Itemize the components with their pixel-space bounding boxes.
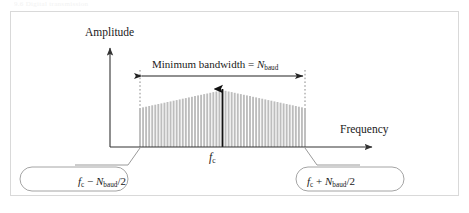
amplitude-axis-label: Amplitude [85, 27, 134, 39]
center-frequency-subscript: c [212, 156, 215, 165]
upper-callout-leader-line [305, 148, 360, 165]
lower-callout-leader-line [75, 148, 140, 165]
bandwidth-annotation-label: Minimum bandwidth = Nbaud [152, 59, 278, 72]
lower-band-edge-callout-text: fc − Nbaud/2 [78, 176, 126, 189]
center-frequency-label: fc [209, 152, 216, 164]
bandwidth-symbol-subscript: baud [264, 64, 278, 72]
bandwidth-label-prefix: Minimum bandwidth [152, 58, 245, 70]
frequency-axis-label: Frequency [340, 124, 389, 136]
figure-root: 9.6 Digital transmission [0, 0, 469, 213]
lower-callout-divisor: /2 [117, 175, 126, 187]
upper-callout-divisor: /2 [346, 175, 355, 187]
lower-callout-operator: − [84, 175, 96, 187]
bandwidth-label-equals: = [245, 58, 257, 70]
upper-band-edge-callout-text: fc + Nbaud/2 [307, 176, 355, 189]
lower-callout-term-subscript: baud [103, 181, 117, 189]
spectrum-diagram [0, 0, 469, 213]
upper-callout-operator: + [313, 175, 325, 187]
upper-callout-term-subscript: baud [332, 181, 346, 189]
